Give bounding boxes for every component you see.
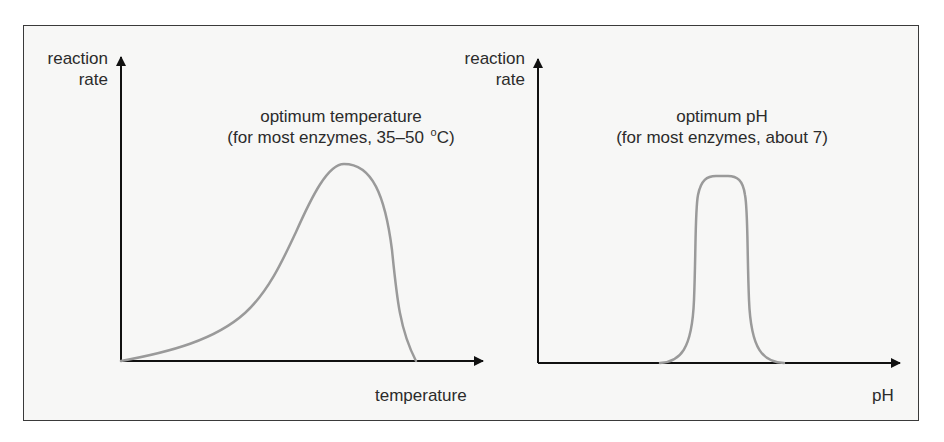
ph-optimum-annotation: optimum pH (for most enzymes, about 7): [582, 106, 862, 148]
y-label-line1: reaction: [34, 48, 108, 69]
y-label-line1: reaction: [450, 48, 525, 69]
degree-symbol: o: [431, 126, 437, 138]
annotation-line1: optimum pH: [582, 106, 862, 127]
ph-chart: [538, 59, 900, 363]
temperature-optimum-annotation: optimum temperature (for most enzymes, 3…: [196, 106, 486, 150]
temperature-x-label: temperature: [375, 385, 467, 406]
annotation-text: (for most enzymes, 35–50: [227, 128, 428, 147]
ph-y-label: reaction rate: [450, 48, 525, 90]
annotation-line1: optimum temperature: [196, 106, 486, 127]
annotation-line2: (for most enzymes, 35–50 oC): [196, 127, 486, 150]
annotation-unit: C): [437, 128, 455, 147]
ph-x-label: pH: [872, 385, 894, 406]
temperature-chart: [121, 57, 483, 361]
y-label-line2: rate: [450, 69, 525, 90]
temperature-curve: [121, 164, 416, 361]
ph-curve: [660, 176, 784, 363]
annotation-line2: (for most enzymes, about 7): [582, 127, 862, 148]
y-label-line2: rate: [34, 69, 108, 90]
temperature-y-label: reaction rate: [34, 48, 108, 90]
